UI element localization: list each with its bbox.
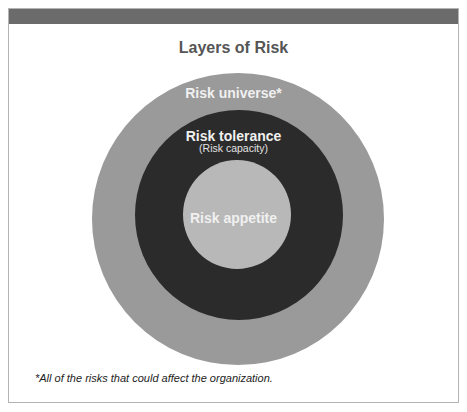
diagram-frame: Layers of Risk Risk universe* Risk toler… (8, 8, 459, 403)
header-bar (9, 9, 458, 24)
risk-universe-label: Risk universe* (9, 84, 458, 102)
risk-appetite-label: Risk appetite (9, 209, 458, 227)
footnote: *All of the risks that could affect the … (35, 371, 273, 385)
diagram-title: Layers of Risk (9, 38, 458, 58)
risk-capacity-sublabel: (Risk capacity) (9, 142, 458, 155)
